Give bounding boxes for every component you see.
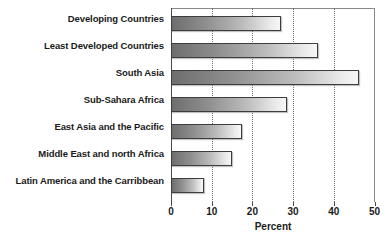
category-label-0: Developing Countries: [0, 13, 164, 24]
bar-5: [171, 151, 232, 166]
gridline-30: [293, 8, 294, 202]
bar-3: [171, 97, 287, 112]
category-label-6: Latin America and the Carribbean: [0, 175, 164, 186]
tick-label-40: 40: [319, 206, 349, 217]
bar-chart: Developing Countries Least Developed Cou…: [0, 0, 392, 239]
bar-6: [171, 178, 204, 193]
tick-label-30: 30: [278, 206, 308, 217]
plot-frame-right: [374, 8, 375, 202]
gridline-40: [334, 8, 335, 202]
x-axis-title: Percent: [171, 221, 375, 232]
category-label-3: Sub-Sahara Africa: [0, 94, 164, 105]
bar-1: [171, 43, 318, 58]
tick-label-20: 20: [237, 206, 267, 217]
category-label-1: Least Developed Countries: [0, 40, 164, 51]
plot-frame-top: [171, 8, 375, 9]
category-label-5: Middle East and north Africa: [0, 148, 164, 159]
category-label-2: South Asia: [0, 67, 164, 78]
bar-2: [171, 70, 359, 85]
bar-4: [171, 124, 242, 139]
plot-area: [171, 8, 375, 202]
bar-0: [171, 16, 281, 31]
category-axis-labels: Developing Countries Least Developed Cou…: [0, 0, 168, 202]
tick-label-50: 50: [360, 206, 390, 217]
tick-label-10: 10: [197, 206, 227, 217]
tick-label-0: 0: [156, 206, 186, 217]
category-label-4: East Asia and the Pacific: [0, 121, 164, 132]
